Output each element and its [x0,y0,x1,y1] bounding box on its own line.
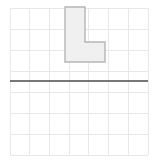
l-shape-polygon [65,7,105,62]
geometry-figure [0,0,156,163]
grid-canvas [0,0,156,163]
